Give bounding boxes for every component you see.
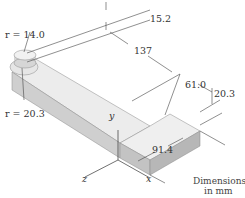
dim-width: 91.4 [152,144,173,155]
units-note-line1: Dimensions [193,176,245,186]
axis-y-label: y [108,110,115,121]
dim-short-arm: 61.0 [185,79,206,90]
units-note-line2: in mm [204,186,233,196]
axis-z-label: z [81,173,88,184]
part-diagram: 15.2 137 61.0 20.3 91.4 r = 14.0 r = 20.… [0,0,245,198]
z-axis [85,160,118,177]
radius-boss-label: r = 14.0 [5,29,45,40]
dim-thickness: 20.3 [214,88,235,99]
dim-boss-height: 15.2 [150,13,171,24]
radius-end-label: r = 20.3 [5,108,45,119]
boss-top [14,50,36,60]
dim-long-arm: 137 [134,45,152,56]
axis-x-label: x [146,173,152,184]
